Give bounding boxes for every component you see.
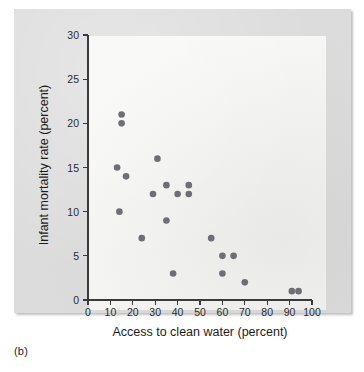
x-tick-label: 80 bbox=[261, 306, 273, 318]
y-tick-label: 25 bbox=[67, 73, 79, 85]
x-tick-label: 30 bbox=[149, 306, 161, 318]
data-point bbox=[295, 288, 302, 295]
data-point bbox=[150, 191, 157, 198]
data-point bbox=[219, 270, 226, 277]
y-tick-label: 20 bbox=[67, 117, 79, 129]
y-tick-label: 10 bbox=[67, 206, 79, 218]
y-axis-ticks: 051015202530 bbox=[67, 29, 88, 306]
data-point bbox=[208, 235, 215, 242]
data-point bbox=[163, 217, 170, 224]
x-tick-label: 60 bbox=[217, 306, 229, 318]
data-point bbox=[174, 191, 181, 198]
data-point bbox=[123, 173, 130, 180]
y-tick-label: 0 bbox=[73, 294, 79, 306]
x-axis-ticks: 0102030405060708090100 bbox=[85, 300, 321, 318]
panel-caption: (b) bbox=[14, 345, 28, 357]
data-point bbox=[289, 288, 296, 295]
x-tick-label: 0 bbox=[85, 306, 91, 318]
data-point bbox=[230, 253, 237, 260]
x-tick-label: 40 bbox=[172, 306, 184, 318]
y-tick-label: 5 bbox=[73, 250, 79, 262]
figure-root: 0102030405060708090100 051015202530 Acce… bbox=[0, 0, 364, 372]
data-points-group bbox=[114, 111, 302, 294]
data-point bbox=[170, 270, 177, 277]
axes-group bbox=[88, 35, 312, 300]
x-tick-label: 20 bbox=[127, 306, 139, 318]
data-point bbox=[118, 111, 125, 118]
data-point bbox=[118, 120, 125, 127]
y-axis-label: Infant mortality rate (percent) bbox=[37, 85, 51, 245]
data-point bbox=[138, 235, 145, 242]
y-tick-label: 30 bbox=[67, 29, 79, 41]
x-tick-label: 70 bbox=[239, 306, 251, 318]
y-tick-label: 15 bbox=[67, 162, 79, 174]
x-tick-label: 90 bbox=[284, 306, 296, 318]
data-point bbox=[114, 164, 121, 171]
x-axis-label: Access to clean water (percent) bbox=[112, 325, 287, 339]
data-point bbox=[186, 182, 193, 189]
data-point bbox=[219, 253, 226, 260]
data-point bbox=[242, 279, 249, 286]
data-point bbox=[154, 155, 161, 162]
data-point bbox=[186, 191, 193, 198]
x-tick-label: 50 bbox=[194, 306, 206, 318]
x-tick-label: 10 bbox=[105, 306, 117, 318]
scatter-chart: 0102030405060708090100 051015202530 Acce… bbox=[0, 0, 364, 372]
data-point bbox=[163, 182, 170, 189]
x-tick-label: 100 bbox=[303, 306, 321, 318]
data-point bbox=[116, 208, 123, 215]
